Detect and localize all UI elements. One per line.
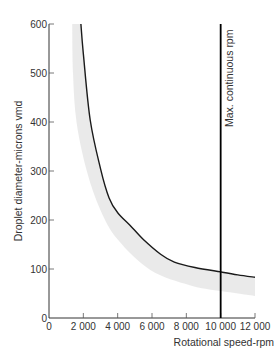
x-tick-label: 2 000 — [71, 321, 96, 332]
y-ticks: 0100200300400500600 — [30, 19, 54, 324]
x-tick-label: 12 000 — [240, 321, 271, 332]
y-tick-label: 300 — [30, 166, 47, 177]
y-tick-label: 600 — [30, 19, 47, 30]
x-axis-label: Rotational speed-rpm — [174, 336, 275, 348]
y-tick-label: 100 — [30, 264, 47, 275]
y-tick-label: 400 — [30, 117, 47, 128]
y-tick-label: 500 — [30, 68, 47, 79]
x-ticks: 02 0004 0006 0008 00010 00012 000 — [46, 313, 271, 332]
x-tick-label: 0 — [46, 321, 52, 332]
chart: 02 0004 0006 0008 00010 00012 000 010020… — [0, 0, 279, 362]
y-tick-label: 0 — [41, 313, 47, 324]
max-continuous-rpm-label: Max. continuous rpm — [223, 29, 235, 127]
x-tick-label: 10 000 — [205, 321, 236, 332]
y-tick-label: 200 — [30, 215, 47, 226]
x-tick-label: 8 000 — [174, 321, 199, 332]
x-tick-label: 4 000 — [105, 321, 130, 332]
y-axis-label: Droplet diameter-microns vmd — [12, 101, 24, 242]
x-tick-label: 6 000 — [139, 321, 164, 332]
